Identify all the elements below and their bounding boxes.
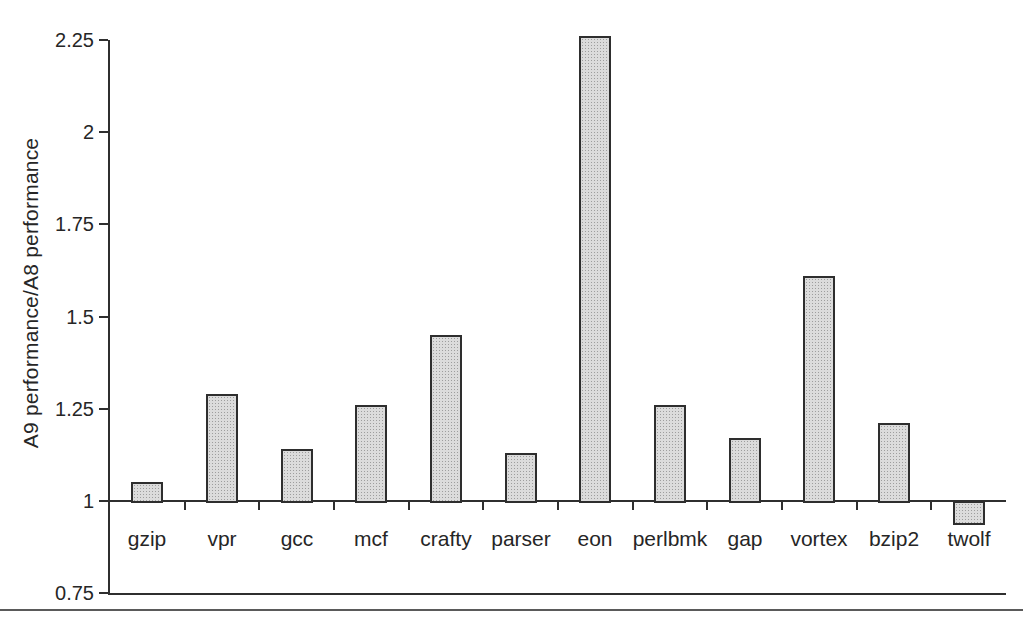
y-tick-label: 2.25 (30, 28, 94, 52)
y-tick (99, 408, 108, 410)
bar-gcc (281, 449, 313, 503)
x-category-label: twolf (914, 527, 1023, 551)
x-tick (856, 501, 858, 510)
x-tick (184, 501, 186, 510)
bar-parser (505, 453, 537, 503)
bar-perlbmk (654, 405, 686, 503)
y-tick (99, 500, 108, 502)
y-tick (99, 223, 108, 225)
plot-area: 2.2521.751.51.2510.75gzipvprgccmcfcrafty… (108, 40, 1006, 595)
x-tick (258, 501, 260, 510)
y-tick-label: 1.5 (30, 305, 94, 329)
y-tick (99, 39, 108, 41)
y-tick-label: 0.75 (30, 581, 94, 605)
bar-mcf (355, 405, 387, 503)
y-tick-label: 2 (30, 120, 94, 144)
y-tick (99, 316, 108, 318)
bar-gzip (131, 482, 163, 503)
x-tick (706, 501, 708, 510)
x-tick (632, 501, 634, 510)
x-tick (781, 501, 783, 510)
bar-crafty (430, 335, 462, 503)
y-tick-label: 1.25 (30, 397, 94, 421)
bar-eon (579, 36, 611, 503)
y-tick-label: 1 (30, 489, 94, 513)
x-tick (408, 501, 410, 510)
y-tick-label: 1.75 (30, 212, 94, 236)
x-tick (333, 501, 335, 510)
x-tick (557, 501, 559, 510)
bar-vortex (803, 276, 835, 503)
y-tick (99, 592, 108, 594)
figure: A9 performance/A8 performance 2.2521.751… (0, 0, 1023, 624)
bar-vpr (206, 394, 238, 503)
y-tick (99, 131, 108, 133)
figure-bottom-rule (0, 609, 1023, 611)
x-tick (482, 501, 484, 510)
x-tick (930, 501, 932, 510)
bar-gap (729, 438, 761, 503)
baseline-axis (110, 500, 1006, 502)
bar-twolf (953, 501, 985, 525)
bar-bzip2 (878, 423, 910, 503)
